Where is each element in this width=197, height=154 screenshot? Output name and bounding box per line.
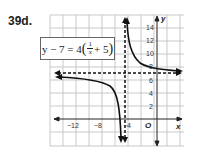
x-tick-minus8: −8 xyxy=(94,122,102,129)
graph xyxy=(0,0,197,154)
y-tick-8: 8 xyxy=(149,63,153,70)
y-tick-2: 2 xyxy=(149,103,153,110)
x-tick-minus4: −4 xyxy=(123,122,131,129)
y-tick-6: 6 xyxy=(149,77,153,84)
equation-box: y − 7 = 4 ( 1 x + 5 ) xyxy=(40,37,115,60)
y-tick-4: 4 xyxy=(149,90,153,97)
y-tick-14: 14 xyxy=(146,24,154,31)
close-paren: ) xyxy=(108,41,113,57)
x-tick-minus12: −12 xyxy=(67,122,79,129)
y-tick-10: 10 xyxy=(146,50,154,57)
equation-lhs: y − 7 = 4 xyxy=(42,43,82,55)
origin-label: O xyxy=(145,121,151,130)
x-axis-label: x xyxy=(176,122,180,131)
fraction: 1 x xyxy=(87,41,93,56)
y-axis-label: y xyxy=(161,14,165,23)
equation-rest: + 5 xyxy=(94,43,108,55)
open-paren: ( xyxy=(82,41,87,57)
fraction-denominator: x xyxy=(89,49,92,56)
y-tick-12: 12 xyxy=(146,37,154,44)
